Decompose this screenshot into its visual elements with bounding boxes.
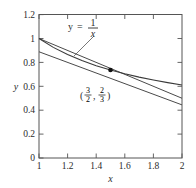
- x-axis-title: x: [107, 173, 113, 184]
- x-tick-labels: 1 1.2 1.4 1.6 1.8 2: [37, 161, 185, 171]
- y-tick-label-0: 0: [30, 153, 35, 163]
- y-tick-label-1-2: 1.2: [23, 10, 35, 20]
- y-tick-label-0-6: 0.6: [23, 82, 35, 92]
- point-label-first-numerator: 3: [86, 86, 90, 95]
- x-tick-label-2: 2: [180, 161, 185, 171]
- x-axis-ticks: [39, 15, 182, 159]
- figure-container: 1.2 1 0.8 0.6 0.4 0.2 0 1 1.2 1.4 1.6 1.…: [0, 0, 196, 188]
- curve-label-numerator: 1: [91, 17, 96, 28]
- y-tick-labels: 1.2 1 0.8 0.6 0.4 0.2 0: [23, 10, 35, 163]
- point-marker-3-halves: [108, 68, 113, 73]
- axes-frame: [39, 15, 182, 159]
- plot-svg: 1.2 1 0.8 0.6 0.4 0.2 0 1 1.2 1.4 1.6 1.…: [0, 0, 196, 188]
- x-tick-label-1-8: 1.8: [147, 161, 159, 171]
- y-tick-label-1: 1: [30, 34, 35, 44]
- curve-label-equals: =: [77, 21, 83, 32]
- point-label-group: ( 3 2 , 2 3 ): [80, 86, 110, 104]
- x-tick-label-1-2: 1.2: [62, 161, 74, 171]
- point-label-comma: ,: [93, 90, 96, 101]
- curve-label-denominator: x: [90, 28, 96, 39]
- x-tick-label-1: 1: [37, 161, 42, 171]
- y-tick-label-0-8: 0.8: [23, 58, 35, 68]
- curve-label-lhs: y: [68, 21, 73, 32]
- y-axis-title: y: [13, 81, 19, 92]
- annotation-leader-line: [74, 36, 94, 56]
- tangent-line: [39, 52, 182, 105]
- point-label-second-numerator: 2: [100, 86, 104, 95]
- y-tick-label-0-4: 0.4: [23, 105, 35, 115]
- y-axis-ticks: [39, 15, 182, 158]
- point-label-open-paren: (: [80, 90, 84, 102]
- point-label-close-paren: ): [107, 90, 110, 102]
- x-tick-label-1-6: 1.6: [119, 161, 131, 171]
- y-tick-label-0-2: 0.2: [23, 129, 35, 139]
- point-label-second-denominator: 3: [100, 95, 104, 104]
- plot-box: [39, 15, 182, 159]
- curve-label-group: y = 1 x: [68, 17, 98, 39]
- point-label-first-denominator: 2: [86, 95, 90, 104]
- x-tick-label-1-4: 1.4: [90, 161, 102, 171]
